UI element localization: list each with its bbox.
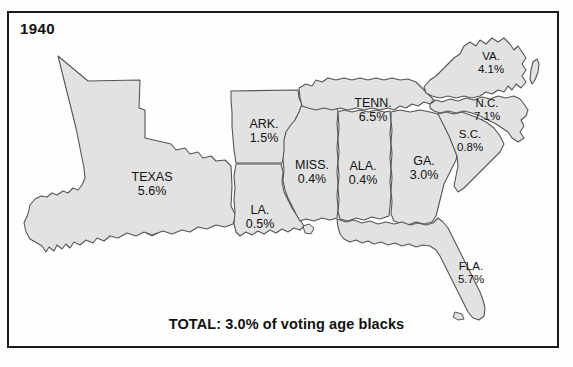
state-label-florida: FLA. 5.7% <box>458 260 484 286</box>
state-value-alabama: 0.4% <box>349 173 378 187</box>
state-label-alabama: ALA. 0.4% <box>349 159 378 187</box>
state-value-florida: 5.7% <box>458 273 484 286</box>
state-value-tennessee: 6.5% <box>354 110 392 124</box>
state-label-tennessee: TENN. 6.5% <box>354 96 392 124</box>
state-name-texas: TEXAS <box>132 170 173 184</box>
state-name-virginia: VA. <box>478 50 504 63</box>
state-value-mississippi: 0.4% <box>295 172 329 186</box>
state-name-arkansas: ARK. <box>249 117 278 131</box>
state-label-arkansas: ARK. 1.5% <box>249 117 278 145</box>
state-label-mississippi: MISS. 0.4% <box>295 158 329 186</box>
state-label-texas: TEXAS 5.6% <box>132 170 173 198</box>
state-name-florida: FLA. <box>458 260 484 273</box>
state-name-south-carolina: S.C. <box>457 128 483 141</box>
state-value-arkansas: 1.5% <box>249 131 278 145</box>
state-label-georgia: GA. 3.0% <box>410 154 439 182</box>
state-label-north-carolina: N.C. 7.1% <box>474 97 500 123</box>
state-label-louisiana: LA. 0.5% <box>246 203 275 231</box>
state-name-georgia: GA. <box>410 154 439 168</box>
state-name-mississippi: MISS. <box>295 158 329 172</box>
state-name-alabama: ALA. <box>349 159 378 173</box>
state-value-texas: 5.6% <box>132 184 173 198</box>
voting-age-blacks-map-figure: 1940 TEXAS 5.6% ARK. 1.5% LA. 0.5% MISS.… <box>0 0 573 367</box>
state-name-north-carolina: N.C. <box>474 97 500 110</box>
state-value-virginia: 4.1% <box>478 63 504 76</box>
state-label-south-carolina: S.C. 0.8% <box>457 128 483 154</box>
total-caption: TOTAL: 3.0% of voting age blacks <box>0 316 573 332</box>
state-shape-virginia-eastern-shore <box>530 59 539 84</box>
state-shape-virginia <box>424 38 526 98</box>
state-value-south-carolina: 0.8% <box>457 141 483 154</box>
page-title: 1940 <box>20 20 55 37</box>
state-name-louisiana: LA. <box>246 203 275 217</box>
coastal-mark-mississippi-delta <box>303 224 314 234</box>
state-value-georgia: 3.0% <box>410 168 439 182</box>
state-shape-texas <box>24 56 236 252</box>
state-value-louisiana: 0.5% <box>246 217 275 231</box>
state-value-north-carolina: 7.1% <box>474 110 500 123</box>
state-label-virginia: VA. 4.1% <box>478 50 504 76</box>
state-name-tennessee: TENN. <box>354 96 392 110</box>
